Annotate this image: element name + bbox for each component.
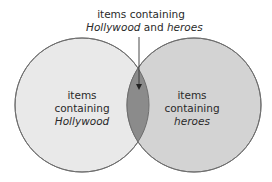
connector-and: and: [144, 21, 164, 33]
intersection-label: items containing Hollywood and heroes: [86, 8, 196, 34]
heroes-label-line2: containing: [150, 102, 234, 115]
hollywood-label-line1: items: [40, 89, 124, 102]
term-heroes: heroes: [167, 21, 203, 33]
hollywood-label-term: Hollywood: [40, 115, 124, 128]
intersection-label-line1: items containing: [86, 8, 196, 21]
heroes-label-term: heroes: [150, 115, 234, 128]
intersection-label-line2: Hollywood and heroes: [86, 21, 196, 34]
heroes-term: heroes: [174, 115, 210, 127]
hollywood-label-line2: containing: [40, 102, 124, 115]
hollywood-set-label: items containing Hollywood: [40, 89, 124, 128]
heroes-set-label: items containing heroes: [150, 89, 234, 128]
term-hollywood: Hollywood: [86, 21, 140, 33]
heroes-label-line1: items: [150, 89, 234, 102]
hollywood-term: Hollywood: [55, 115, 109, 127]
